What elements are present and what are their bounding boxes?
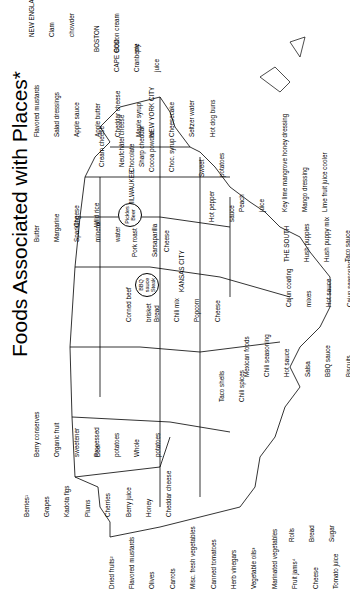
- food-item: Cajun coating: [286, 260, 293, 307]
- food-item: Beer: [95, 412, 102, 458]
- food-item: Chili spices: [239, 370, 246, 402]
- food-item: Taco sauce: [345, 217, 350, 262]
- food-item: Flavored mustards: [129, 526, 136, 589]
- food-item: Berry conserves: [34, 412, 41, 458]
- food-item: potatoes: [219, 153, 226, 177]
- food-item: Hot pepper: [209, 191, 216, 222]
- food-item: Cherries: [105, 471, 112, 517]
- food-item: Misc. fresh vegetables: [190, 526, 197, 589]
- region-name: THE SOUTH: [284, 217, 291, 262]
- label-cape-cod: CAPE COD Cranberry juice: [100, 39, 175, 72]
- food-item: Flavored mustards: [34, 85, 41, 137]
- food-item: Margarine: [54, 214, 61, 242]
- food-item: Bread: [154, 298, 161, 322]
- food-item: Rolls: [289, 525, 296, 542]
- food-item: Corned beef: [126, 287, 133, 322]
- food-item: Hot dog buns: [210, 87, 217, 137]
- food-item: Hush puppies: [304, 217, 311, 262]
- food-item: Whole: [134, 427, 141, 457]
- label-kansas-city: KANSAS CITY: [165, 250, 199, 292]
- food-item: Key lime mangrove honey dressing: [282, 114, 289, 212]
- food-item: potatoes: [155, 427, 162, 457]
- food-item: Plums: [85, 471, 92, 517]
- label-oregon: Berries¹ Grapes Kadota figs Plums Cherri…: [10, 471, 187, 517]
- label-florida: Key lime mangrove honey dressing Mango d…: [268, 114, 343, 212]
- food-item: chowder: [69, 0, 76, 37]
- food-item: Grapes: [44, 471, 51, 517]
- label-the-south: THE SOUTH Hush puppies Hush puppy mix Ta…: [270, 217, 350, 262]
- food-item: Bread: [309, 525, 316, 542]
- rotated-map-page: Foods Associated with Places* NEW ENGLAN…: [0, 0, 350, 597]
- food-item: Canned tomatoes: [211, 526, 218, 589]
- food-item: Cream cheese: [99, 115, 106, 167]
- food-item: Cranberry: [134, 39, 141, 72]
- label-milwaukee: MILWAUKEE: [115, 170, 149, 207]
- food-item: Popcorn: [194, 298, 201, 322]
- food-item: Chili seasoning: [264, 330, 271, 377]
- food-item: Berry juice: [126, 471, 133, 517]
- food-item: Cheese: [215, 298, 222, 322]
- food-item: Sweet: [199, 153, 206, 177]
- label-washington: Berry conserves Organic fruit sweetener …: [20, 412, 115, 458]
- food-item: Apple sauce: [74, 85, 81, 137]
- food-item: Peach: [239, 194, 246, 212]
- food-item: mixes: [306, 260, 313, 307]
- label-kansas: Bread Chili mix Popcorn Cheese: [140, 298, 235, 322]
- food-item: Organic fruit: [54, 412, 61, 458]
- region-name: CAPE COD: [114, 39, 121, 72]
- food-item: Seltzer water: [189, 87, 196, 137]
- food-item: Lime fruit juice cooler: [322, 114, 329, 212]
- region-name: MILWAUKEE: [129, 170, 136, 207]
- food-item: Pork roast: [132, 224, 139, 257]
- food-item: Cocoa powder: [149, 131, 156, 172]
- food-item: Olives: [149, 526, 156, 589]
- food-item: Chili mix: [174, 298, 181, 322]
- food-item: Chocolate: [129, 131, 136, 172]
- food-item: Kadota figs: [64, 471, 71, 517]
- food-item: Sparkling: [74, 214, 81, 242]
- region-name: NEW ENGLAND: [29, 0, 36, 37]
- food-item: Hush puppy mix: [324, 217, 331, 262]
- food-item: Vegetable oils³: [251, 526, 258, 589]
- food-item: Hot sauce: [284, 330, 291, 377]
- food-item: Butter: [34, 214, 41, 242]
- food-item: Cheesecake: [169, 87, 176, 137]
- label-new-mexico: Taco shells Chili spices: [205, 370, 259, 402]
- food-item: Honey: [146, 471, 153, 517]
- food-item: Carrots: [170, 526, 177, 589]
- food-item: Salsa: [305, 330, 312, 377]
- label-north-carolina: Sweet potatoes: [185, 153, 239, 177]
- food-item: juice: [154, 39, 161, 72]
- food-item: Cheese: [164, 230, 171, 252]
- food-item: Berries¹: [24, 471, 31, 517]
- food-item: Mango dressing: [302, 114, 309, 212]
- label-new-england: NEW ENGLAND Clam chowder: [15, 0, 90, 37]
- food-item: Clam: [49, 0, 56, 37]
- food-item: Dried fruits²: [109, 526, 116, 589]
- label-hawaii: Rolls Bread Sugar: [275, 525, 350, 542]
- food-item: Sugar: [329, 525, 336, 542]
- food-item: mineral: [95, 214, 102, 242]
- food-item: BBQ sauce: [325, 330, 332, 377]
- food-item: Choc. syrup: [169, 131, 176, 172]
- label-louisiana: Cajun coating mixes Hot sauce Cajun seas…: [272, 260, 350, 307]
- label-missouri: Cheese: [150, 230, 184, 252]
- food-item: Cheddar cheese: [166, 471, 173, 517]
- food-item: sweetener: [74, 412, 81, 458]
- label-pennsylvania: Chocolate Cocoa powder Choc. syrup: [115, 131, 190, 172]
- food-item: juice: [259, 194, 266, 212]
- food-item: Taco shells: [219, 370, 226, 402]
- food-item: Salad dressings: [54, 85, 61, 137]
- food-item: Biscuits: [346, 330, 350, 377]
- food-item: Herb vinegars: [231, 526, 238, 589]
- region-name: KANSAS CITY: [179, 250, 186, 292]
- food-item: Hot sauce: [326, 260, 333, 307]
